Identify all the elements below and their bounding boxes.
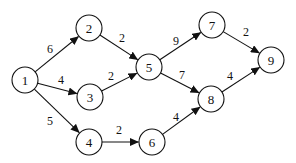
- node-label: 7: [209, 18, 216, 33]
- node-label: 9: [268, 53, 275, 68]
- edge-3-5-weight: 2: [108, 69, 114, 83]
- node-label: 1: [22, 73, 29, 88]
- node-5: 5: [136, 54, 162, 80]
- edge-3-5-arrow: [102, 73, 137, 91]
- edge-7-9-arrow: [223, 32, 259, 53]
- edges: 64522297424: [34, 25, 259, 142]
- node-2: 2: [76, 15, 102, 41]
- edge-1-2-arrow: [35, 37, 78, 72]
- edge-7-9-weight: 2: [243, 25, 249, 39]
- edge-5-8-weight: 7: [179, 68, 185, 82]
- edge-6-8-arrow: [163, 107, 201, 134]
- edge-1-4-arrow: [34, 89, 79, 133]
- edge-5-7-arrow: [160, 32, 201, 59]
- node-label: 4: [86, 135, 93, 150]
- edge-8-9-weight: 4: [227, 69, 233, 83]
- edge-5-7-weight: 9: [173, 34, 179, 48]
- node-1: 1: [12, 67, 38, 93]
- network-diagram: 64522297424 123456789: [0, 0, 296, 163]
- node-label: 5: [146, 60, 153, 75]
- node-9: 9: [258, 47, 284, 73]
- node-label: 6: [149, 135, 156, 150]
- node-7: 7: [199, 12, 225, 38]
- edge-2-5-weight: 2: [119, 31, 125, 45]
- edge-4-6-weight: 2: [116, 123, 122, 137]
- edge-1-2-weight: 6: [47, 42, 53, 56]
- node-label: 8: [208, 92, 215, 107]
- node-label: 3: [87, 90, 94, 105]
- edge-1-3-weight: 4: [58, 73, 64, 87]
- node-8: 8: [198, 86, 224, 112]
- edge-1-4-weight: 5: [47, 114, 53, 128]
- node-label: 2: [86, 21, 93, 36]
- node-6: 6: [139, 129, 165, 155]
- node-4: 4: [76, 129, 102, 155]
- edge-6-8-weight: 4: [173, 110, 179, 124]
- node-3: 3: [77, 84, 103, 110]
